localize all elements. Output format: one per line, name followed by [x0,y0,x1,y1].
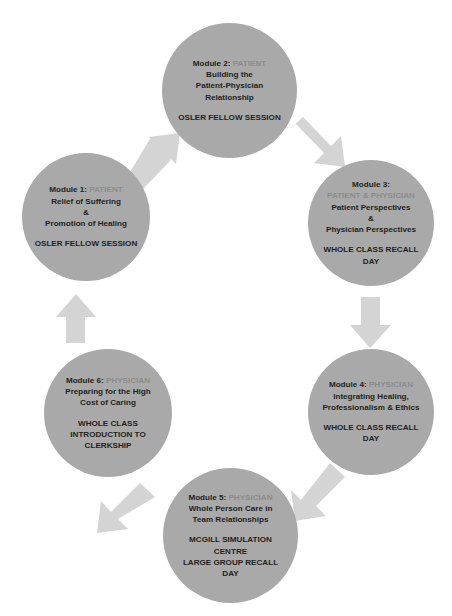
module-6-label: Module 6: [66,376,106,385]
arrow-module6-to-module1 [56,294,96,343]
node-module-6[interactable]: Module 6: PHYSICIAN Preparing for the Hi… [44,349,172,477]
module-6-desc-line-2: Cost of Caring [80,397,136,408]
module-5-label: Module 5: [188,493,228,502]
cycle-diagram: Module 2: PATIENT Building the Patient-P… [0,0,452,616]
module-5-session-line-3: LARGE GROUP RECALL [183,557,278,568]
module-5-desc-line-1: Whole Person Care in [189,503,273,514]
module-1-role: PATIENT [89,185,122,194]
module-2-title: Module 2: PATIENT [193,58,266,69]
module-4-desc-line-1: Integrating Healing, [333,391,409,402]
node-module-3[interactable]: Module 3: PATIENT & PHYSICIAN Patient Pe… [308,160,434,286]
node-module-1[interactable]: Module 1: PATIENT Relief of Suffering & … [22,153,150,281]
module-6-desc-line-1: Preparing for the High [65,386,150,397]
module-5-desc-line-2: Team Relationships [193,514,269,525]
arrow-module2-to-module3 [288,117,345,167]
arrow-module5-to-module6 [97,483,155,533]
module-6-session-line-3: CLERKSHIP [85,440,132,451]
node-module-5[interactable]: Module 5: PHYSICIAN Whole Person Care in… [163,468,298,603]
module-5-session-line-4: DAY [222,568,238,579]
module-6-title: Module 6: PHYSICIAN [66,375,150,386]
module-1-session-line-1: OSLER FELLOW SESSION [35,238,138,249]
module-1-desc-line-2: & [83,207,89,218]
module-3-desc-line-1: Patient Perspectives [331,202,410,213]
module-2-role: PATIENT [233,59,266,68]
module-3-role: PATIENT & PHYSICIAN [327,190,415,201]
node-module-2[interactable]: Module 2: PATIENT Building the Patient-P… [162,23,297,158]
module-2-desc-line-1: Building the [206,69,253,80]
module-4-label: Module 4: [329,380,369,389]
module-4-role: PHYSICIAN [369,380,413,389]
module-4-title: Module 4: PHYSICIAN [329,379,413,390]
module-6-role: PHYSICIAN [106,376,150,385]
module-3-label: Module 3: [352,179,390,190]
module-4-session-line-2: DAY [363,433,379,444]
module-3-desc-line-3: Physician Perspectives [326,224,416,235]
arrow-module3-to-module4 [350,297,391,348]
module-4-session-line-1: WHOLE CLASS RECALL [324,422,419,433]
module-3-session-line-2: DAY [363,256,379,267]
module-5-session-line-2: CENTRE [214,546,247,557]
module-3-session-line-1: WHOLE CLASS RECALL [324,244,419,255]
module-1-desc-line-3: Promotion of Healing [45,218,127,229]
module-1-label: Module 1: [49,185,89,194]
module-1-desc-line-1: Relief of Suffering [51,196,121,207]
module-2-session-line-1: OSLER FELLOW SESSION [178,112,281,123]
arrow-module4-to-module5 [291,463,345,521]
module-1-title: Module 1: PATIENT [49,184,122,195]
module-4-desc-line-2: Professionalism & Ethics [322,402,419,413]
module-2-desc-line-3: Relationship [205,92,254,103]
module-2-desc-line-2: Patient-Physician [196,80,263,91]
module-2-label: Module 2: [193,59,233,68]
node-module-4[interactable]: Module 4: PHYSICIAN Integrating Healing,… [308,349,434,475]
module-3-desc-line-2: & [368,213,374,224]
module-5-role: PHYSICIAN [228,493,272,502]
module-6-session-line-2: INTRODUCTION TO [70,429,145,440]
module-6-session-line-1: WHOLE CLASS [78,418,138,429]
module-5-session-line-1: MCGILL SIMULATION [189,534,272,545]
module-5-title: Module 5: PHYSICIAN [188,492,272,503]
